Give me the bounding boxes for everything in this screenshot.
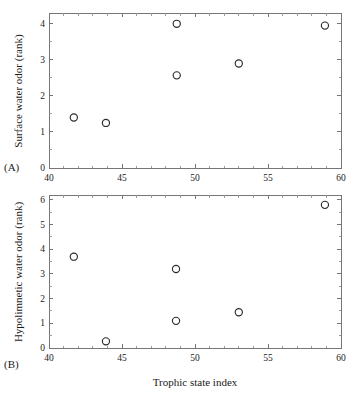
plot-frame [49, 195, 341, 348]
data-point [173, 72, 180, 79]
y-tick-label: 1 [27, 127, 45, 137]
data-point [70, 253, 77, 260]
data-point [102, 119, 109, 126]
panel-a-tag: (A) [4, 161, 19, 173]
x-axis-title: Trophic state index [153, 376, 238, 388]
y-tick-label: 6 [27, 195, 45, 205]
data-point [70, 114, 77, 121]
y-tick-label: 4 [27, 19, 45, 29]
scatter-figure: 404550556001234 Surface water odor (rank… [0, 0, 359, 395]
data-point [321, 201, 328, 208]
data-point [235, 60, 242, 67]
x-tick-label: 50 [190, 173, 200, 183]
x-tick-label: 60 [336, 173, 346, 183]
data-point [173, 20, 180, 27]
y-tick-label: 5 [27, 220, 45, 230]
y-tick-label: 3 [27, 269, 45, 279]
x-tick-label: 45 [117, 173, 127, 183]
x-tick-label: 55 [263, 173, 273, 183]
y-tick-label: 0 [27, 163, 45, 173]
x-tick-label: 40 [44, 353, 54, 363]
y-tick-label: 1 [27, 318, 45, 328]
panel-b: 40455055600123456 Hypolimnetic water odo… [0, 188, 359, 395]
panel-a-plot-area [0, 0, 359, 190]
panel-a-y-axis-title: Surface water odor (rank) [12, 34, 24, 147]
y-tick-label: 4 [27, 244, 45, 254]
x-tick-label: 60 [336, 353, 346, 363]
y-tick-label: 2 [27, 91, 45, 101]
data-point [172, 317, 179, 324]
panel-b-y-axis-title: Hypolimnetic water odor (rank) [12, 201, 24, 341]
panel-b-plot-area [0, 188, 359, 395]
data-point [321, 22, 328, 29]
data-point [235, 309, 242, 316]
panel-a: 404550556001234 Surface water odor (rank… [0, 0, 359, 190]
panel-b-tag: (B) [4, 358, 19, 370]
data-point [102, 338, 109, 345]
data-point [172, 265, 179, 272]
x-tick-label: 55 [263, 353, 273, 363]
x-tick-label: 50 [190, 353, 200, 363]
y-tick-label: 0 [27, 343, 45, 353]
y-tick-label: 3 [27, 55, 45, 65]
x-tick-label: 40 [44, 173, 54, 183]
plot-frame [49, 13, 341, 168]
y-tick-label: 2 [27, 294, 45, 304]
x-tick-label: 45 [117, 353, 127, 363]
